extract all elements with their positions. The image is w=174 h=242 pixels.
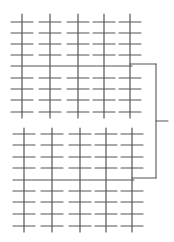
merge-bracket: [130, 64, 168, 178]
top-grid: [11, 14, 141, 118]
bottom-grid: [13, 128, 143, 232]
grid-bracket-diagram: [0, 0, 174, 242]
diagram-canvas: [0, 0, 174, 242]
